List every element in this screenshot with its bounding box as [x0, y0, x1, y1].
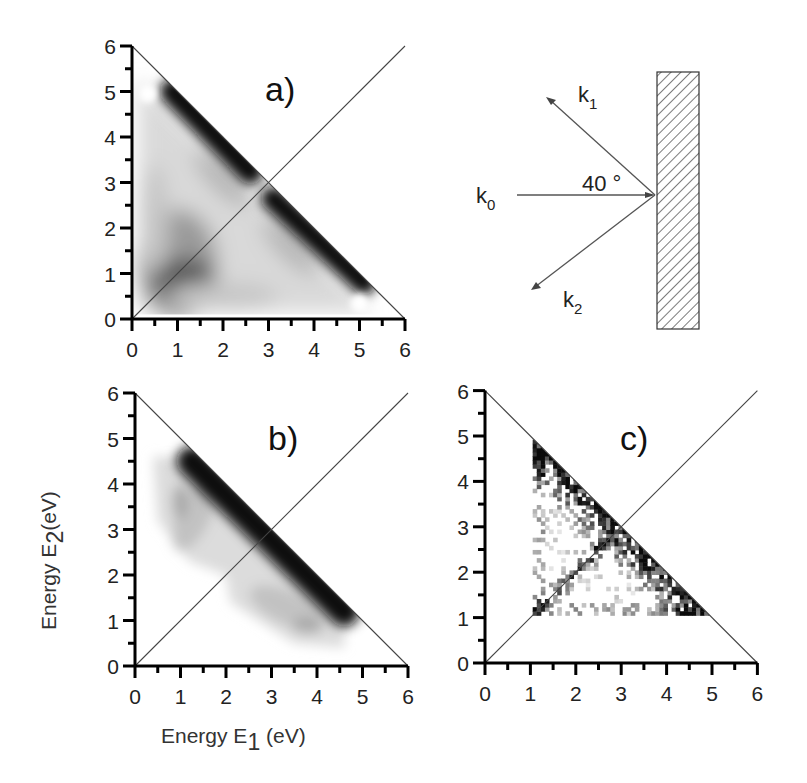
y-tick-label: 0 — [457, 652, 469, 675]
x-tick-label: 1 — [175, 685, 187, 708]
y-tick-label: 1 — [107, 610, 119, 633]
y-tick-label: 0 — [107, 655, 119, 678]
k1-label: k1 — [578, 82, 597, 112]
k2-arrow — [535, 195, 655, 287]
panel-b-heatmap: 01234560123456b) — [107, 382, 414, 708]
x-tick-label: 3 — [615, 682, 627, 705]
x-tick-label: 5 — [706, 682, 718, 705]
x-tick-label: 4 — [311, 685, 323, 708]
x-tick-label: 4 — [661, 682, 673, 705]
y-tick-label: 5 — [107, 428, 119, 451]
panel-label: b) — [268, 419, 298, 457]
x-tick-label: 4 — [308, 338, 320, 361]
panel-label: c) — [620, 419, 648, 457]
heatmap-density — [132, 78, 405, 320]
x-axis-title: Energy E1 (eV) — [161, 724, 306, 755]
y-tick-label: 3 — [104, 172, 116, 195]
x-tick-label: 0 — [126, 338, 138, 361]
y-tick-label: 0 — [104, 308, 116, 331]
x-tick-label: 6 — [752, 682, 764, 705]
target-slab — [657, 72, 699, 329]
x-tick-label: 5 — [357, 685, 369, 708]
y-tick-label: 3 — [457, 516, 469, 539]
y-tick-label: 5 — [457, 425, 469, 448]
x-tick-label: 2 — [570, 682, 582, 705]
x-tick-label: 5 — [354, 338, 366, 361]
y-tick-label: 6 — [104, 35, 116, 58]
y-tick-label: 4 — [104, 126, 116, 149]
x-tick-label: 1 — [172, 338, 184, 361]
y-tick-label: 4 — [107, 473, 119, 496]
panel-a-heatmap: 01234560123456a) — [104, 35, 411, 361]
figure: 01234560123456a) 01234560123456b) 012345… — [0, 0, 807, 783]
panel-label: a) — [265, 70, 295, 108]
y-tick-label: 2 — [104, 217, 116, 240]
y-tick-label: 2 — [457, 561, 469, 584]
x-tick-label: 3 — [266, 685, 278, 708]
x-tick-label: 0 — [479, 682, 491, 705]
x-tick-label: 6 — [402, 685, 414, 708]
y-tick-label: 1 — [104, 263, 116, 286]
y-tick-label: 6 — [457, 380, 469, 403]
k2-label: k2 — [563, 287, 582, 317]
y-tick-label: 2 — [107, 564, 119, 587]
angle-label: 40 ° — [582, 171, 621, 196]
k0-label: k0 — [476, 183, 495, 213]
y-tick-label: 5 — [104, 81, 116, 104]
y-tick-label: 6 — [107, 382, 119, 405]
panel-c-heatmap: 01234560123456c) — [457, 380, 763, 705]
y-axis-title: Energy E2(eV) — [37, 491, 68, 630]
y-tick-label: 3 — [107, 519, 119, 542]
scattering-geometry-diagram: k1 k0 k2 40 ° — [476, 72, 699, 329]
y-tick-label: 4 — [457, 470, 469, 493]
x-tick-label: 2 — [220, 685, 232, 708]
x-tick-label: 1 — [525, 682, 537, 705]
x-tick-label: 6 — [399, 338, 411, 361]
x-tick-label: 0 — [129, 685, 141, 708]
x-tick-label: 3 — [263, 338, 275, 361]
x-tick-label: 2 — [217, 338, 229, 361]
y-tick-label: 1 — [457, 607, 469, 630]
